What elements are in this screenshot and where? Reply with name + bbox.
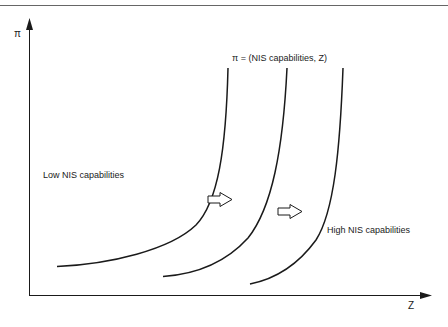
equation-label: π = (NIS capabilities, Z) [232,54,327,63]
shift-arrow-1-icon [208,193,232,207]
curve-2 [163,68,287,277]
high-capabilities-label: High NIS capabilities [327,226,410,235]
shift-arrow-2-icon [278,205,302,219]
diagram-graphics [0,0,448,327]
curve-1 [57,68,228,267]
y-axis-label: π [14,29,21,39]
x-axis-label: Z [408,301,414,311]
y-axis-arrowhead-icon [26,18,33,30]
curve-3 [250,68,343,284]
diagram-canvas: π Z π = (NIS capabilities, Z) Low NIS ca… [0,0,448,327]
low-capabilities-label: Low NIS capabilities [43,171,124,180]
x-axis-arrowhead-icon [420,292,432,299]
